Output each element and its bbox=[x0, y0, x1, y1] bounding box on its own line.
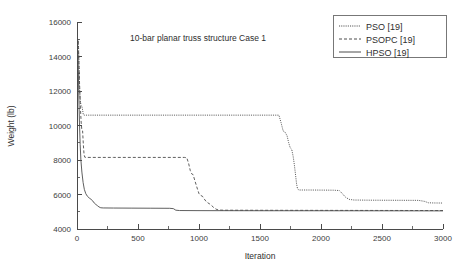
legend-label-psopc[interactable]: PSOPC [19] bbox=[366, 35, 415, 45]
x-tick-label: 0 bbox=[75, 234, 80, 243]
series-line-hpso bbox=[78, 53, 443, 211]
series-line-pso bbox=[78, 39, 443, 203]
data-series-group bbox=[78, 39, 443, 211]
y-axis-tick-labels: 40006000800010000120001400016000 bbox=[49, 18, 72, 234]
x-tick-label: 1000 bbox=[190, 234, 208, 243]
x-tick-label: 2500 bbox=[373, 234, 391, 243]
x-axis-tick-labels: 050010001500200025003000 bbox=[75, 234, 453, 243]
y-axis-title: Weight (lb) bbox=[6, 105, 16, 146]
x-tick-label: 3000 bbox=[434, 234, 452, 243]
y-tick-label: 6000 bbox=[53, 191, 71, 200]
legend-label-pso[interactable]: PSO [19] bbox=[366, 22, 403, 32]
chart-legend[interactable]: PSO [19]PSOPC [19]HPSO [19] bbox=[333, 15, 446, 58]
chart-figure: 050010001500200025003000 400060008000100… bbox=[0, 0, 462, 269]
x-tick-label: 2000 bbox=[312, 234, 330, 243]
x-axis-major-ticks bbox=[77, 224, 443, 229]
chart-title: 10-bar planar truss structure Case 1 bbox=[130, 33, 266, 43]
x-axis-title: Iteration bbox=[245, 251, 276, 261]
y-tick-label: 10000 bbox=[49, 122, 72, 131]
series-line-psopc bbox=[78, 41, 443, 211]
y-tick-label: 4000 bbox=[53, 225, 71, 234]
x-tick-label: 1500 bbox=[251, 234, 269, 243]
legend-label-hpso[interactable]: HPSO [19] bbox=[366, 48, 409, 58]
y-tick-label: 16000 bbox=[49, 18, 72, 27]
y-tick-label: 12000 bbox=[49, 87, 72, 96]
x-tick-label: 500 bbox=[131, 234, 145, 243]
line-chart: 050010001500200025003000 400060008000100… bbox=[0, 0, 462, 269]
y-tick-label: 14000 bbox=[49, 53, 72, 62]
y-tick-label: 8000 bbox=[53, 156, 71, 165]
